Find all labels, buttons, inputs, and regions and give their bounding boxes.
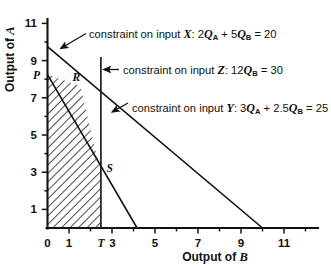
constraint-chart: 1 3 5 7 P 9 11 0 1 T 3 5 7 9 11 R S Outp…	[0, 0, 331, 267]
y-tick-label-7: 7	[31, 92, 37, 104]
chart-page: 1 3 5 7 P 9 11 0 1 T 3 5 7 9 11 R S Outp…	[0, 0, 331, 267]
annotation-z-rhs: = 30	[258, 64, 283, 76]
annotation-constraint-z: constraint on input Z: 12QB = 30	[123, 63, 283, 78]
x-tick-label-1: 1	[66, 237, 73, 249]
y-tick-label-5: 5	[31, 129, 38, 141]
annotation-x-q2: Q	[237, 27, 246, 41]
vertex-label-t: T	[97, 237, 105, 249]
annotation-y-rhs: = 25	[303, 102, 328, 114]
annotation-y-prefix: constraint on input	[132, 102, 227, 114]
annotation-z-prefix: constraint on input	[123, 64, 218, 76]
annotation-x-q1: Q	[204, 27, 213, 41]
annotation-x-plus: +	[218, 28, 231, 40]
annotation-x-prefix: constraint on input	[89, 28, 184, 40]
x-tick-label-11: 11	[278, 237, 291, 249]
x-axis-title-text: Output of	[182, 250, 239, 264]
annotation-constraint-y: constraint on input Y: 3QA + 2.5QB = 25	[132, 101, 328, 116]
y-tick-label-3: 3	[31, 166, 37, 178]
x-tick-label-0: 0	[44, 237, 50, 249]
x-axis-title: Output of B	[182, 250, 248, 264]
annotation-z-b-coef: 12	[231, 64, 243, 76]
x-tick-label-3: 3	[109, 237, 115, 249]
svg-text:Output of A: Output of A	[3, 26, 17, 92]
y-tick-label-11: 11	[25, 17, 38, 29]
annotation-x-rhs: = 20	[251, 28, 276, 40]
leader-line-y	[112, 103, 128, 112]
vertex-label-p: P	[33, 69, 41, 81]
y-axis-title: Output of A	[3, 26, 17, 92]
x-tick-label-9: 9	[238, 237, 244, 249]
x-tick-label-7: 7	[195, 237, 201, 249]
leader-line-x	[61, 34, 87, 49]
y-tick-label-9: 9	[31, 55, 37, 67]
annotation-y-q1: Q	[246, 101, 255, 115]
annotation-constraint-x: constraint on input X: 2QA + 5QB = 20	[89, 27, 277, 42]
y-axis-title-var: A	[3, 26, 17, 35]
y-axis-title-text: Output of	[3, 35, 17, 92]
y-tick-label-1: 1	[31, 203, 38, 215]
annotation-z-q2: Q	[244, 63, 253, 77]
annotation-y-plus: +	[260, 102, 273, 114]
annotation-y-q2: Q	[289, 101, 298, 115]
x-axis-title-var: B	[238, 250, 247, 264]
x-tick-label-5: 5	[152, 237, 159, 249]
vertex-label-r: R	[72, 71, 81, 83]
annotation-y-b-coef: 2.5	[273, 102, 289, 114]
vertex-label-s: S	[107, 162, 113, 174]
